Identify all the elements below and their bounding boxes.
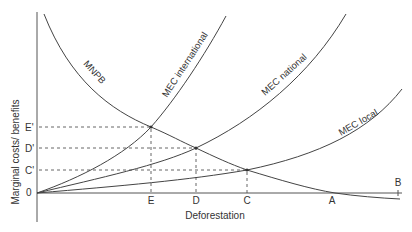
y-label-d: D' xyxy=(25,143,34,154)
x-label-b: B xyxy=(395,177,402,188)
mec-national-label: MEC national xyxy=(259,51,309,97)
origin-label: 0 xyxy=(26,187,32,198)
y-label-e: E' xyxy=(25,122,34,133)
guide-c xyxy=(39,170,247,193)
x-axis-title: Deforestation xyxy=(185,210,244,221)
guide-e xyxy=(39,127,151,193)
mec-international-label: MEC international xyxy=(159,30,209,99)
mnpb-label: MNPB xyxy=(82,58,109,86)
y-axis-title: Marginal costs/ benefits xyxy=(10,99,21,204)
x-label-a: A xyxy=(329,195,336,206)
deforestation-chart: MNPB MEC international MEC national MEC … xyxy=(0,0,412,232)
intersection-d xyxy=(194,146,197,149)
intersection-c xyxy=(245,168,248,171)
mec-local-label: MEC local xyxy=(337,107,380,138)
y-label-c: C' xyxy=(25,165,34,176)
mec-local-curve xyxy=(37,89,402,193)
x-label-e: E xyxy=(148,195,155,206)
x-label-d: D xyxy=(192,195,199,206)
mec-national-curve xyxy=(37,14,346,193)
mnpb-curve xyxy=(44,14,400,199)
x-label-c: C xyxy=(243,195,250,206)
intersection-e xyxy=(149,125,152,128)
